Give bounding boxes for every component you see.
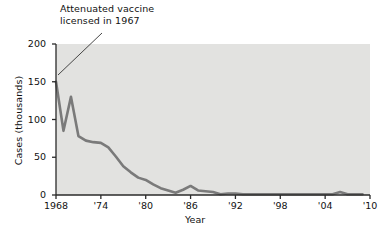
y-tick-label: 50 <box>16 151 46 162</box>
y-tick-label: 0 <box>16 189 46 200</box>
measles-cases-line-chart: Attenuated vaccine licensed in 1967 Case… <box>0 0 388 243</box>
x-axis-title: Year <box>185 214 205 225</box>
x-tick-label: '92 <box>228 200 243 211</box>
y-tick-label: 150 <box>16 76 46 87</box>
x-tick-label: '80 <box>138 200 153 211</box>
annotation-text: Attenuated vaccine licensed in 1967 <box>60 3 205 27</box>
x-tick-label: '98 <box>273 200 288 211</box>
plot-background <box>56 44 370 195</box>
x-tick-label: '86 <box>183 200 198 211</box>
x-tick-label: '10 <box>363 200 378 211</box>
x-tick-label: '04 <box>318 200 333 211</box>
x-tick-label: 1968 <box>44 200 68 211</box>
y-tick-label: 200 <box>16 38 46 49</box>
x-tick-label: '74 <box>93 200 108 211</box>
y-tick-label: 100 <box>16 114 46 125</box>
